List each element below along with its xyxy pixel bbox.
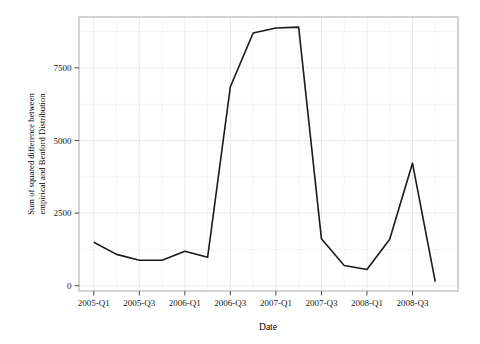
y-tick-label: 0	[67, 281, 72, 291]
y-tick-label: 5000	[54, 136, 73, 146]
x-axis-title: Date	[259, 322, 277, 332]
x-tick-label: 2006-Q3	[214, 298, 246, 308]
y-tick-label: 2500	[54, 208, 73, 218]
x-tick-label: 2008-Q1	[351, 298, 383, 308]
y-axis-title-line-2: empirical and Benford Distribution	[37, 93, 47, 215]
x-tick-label: 2007-Q1	[260, 298, 292, 308]
line-chart: 2005-Q12005-Q32006-Q12006-Q32007-Q12007-…	[0, 0, 480, 344]
y-tick-label: 7500	[54, 63, 73, 73]
x-tick-label: 2007-Q3	[305, 298, 337, 308]
x-tick-label: 2005-Q3	[123, 298, 155, 308]
x-tick-label: 2006-Q1	[169, 298, 201, 308]
x-tick-label: 2005-Q1	[78, 298, 110, 308]
x-tick-label: 2008-Q3	[396, 298, 428, 308]
y-axis-title-line-1: Sum of squared difference between	[26, 93, 36, 215]
chart-container: 2005-Q12005-Q32006-Q12006-Q32007-Q12007-…	[0, 0, 480, 344]
